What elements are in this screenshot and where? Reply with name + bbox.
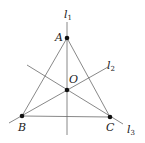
- label-c: C: [106, 122, 114, 133]
- label-l2-subscript: 2: [111, 65, 115, 73]
- label-l3: l3: [127, 124, 135, 137]
- label-a: A: [55, 32, 63, 43]
- triangle-diagram: A B C O l1 l2 l3: [0, 0, 145, 143]
- segment-ab: [22, 38, 67, 116]
- point-b: [20, 114, 25, 119]
- point-a: [65, 36, 70, 41]
- line-l2: [9, 67, 108, 123]
- segment-bc: [22, 116, 110, 117]
- label-l3-subscript: 3: [131, 129, 135, 137]
- label-l1: l1: [64, 9, 72, 22]
- label-b: B: [18, 122, 26, 133]
- point-o: [65, 88, 70, 93]
- point-c: [108, 115, 113, 120]
- label-l2: l2: [107, 60, 115, 73]
- label-l1-subscript: 1: [68, 14, 72, 22]
- label-o: O: [69, 74, 78, 85]
